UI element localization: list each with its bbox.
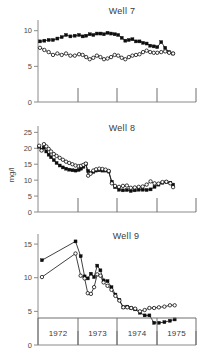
data-point-filled bbox=[95, 32, 98, 35]
data-point-filled bbox=[96, 264, 99, 267]
data-point-filled bbox=[52, 38, 55, 41]
data-point-open bbox=[74, 252, 77, 255]
data-point-filled bbox=[68, 168, 71, 171]
data-point-open bbox=[163, 305, 166, 308]
data-point-open bbox=[92, 285, 95, 288]
data-point-filled bbox=[92, 33, 95, 36]
y-tick-label: 15 bbox=[24, 240, 32, 249]
data-point-open bbox=[106, 284, 109, 287]
data-point-filled bbox=[148, 314, 151, 317]
data-point-filled bbox=[52, 159, 55, 162]
data-point-open bbox=[173, 304, 176, 307]
data-point-open bbox=[117, 185, 120, 188]
year-label-1975: 1975 bbox=[167, 329, 186, 338]
y-tick-label: 15 bbox=[24, 160, 32, 169]
data-point-open bbox=[124, 58, 127, 61]
data-point-open bbox=[113, 184, 116, 187]
y-tick-label: 5 bbox=[28, 307, 32, 316]
data-point-filled bbox=[149, 44, 152, 47]
data-point-filled bbox=[78, 33, 81, 36]
data-point-open bbox=[73, 54, 76, 57]
panel-1: 0510Well 7 bbox=[24, 6, 196, 107]
data-point-open bbox=[89, 172, 92, 175]
data-point-filled bbox=[145, 42, 148, 45]
data-point-filled bbox=[117, 33, 120, 36]
data-point-filled bbox=[102, 33, 105, 36]
data-point-open bbox=[99, 274, 102, 277]
data-point-open bbox=[167, 51, 170, 54]
data-point-filled bbox=[47, 38, 50, 41]
data-point-open bbox=[152, 51, 155, 54]
data-point-filled bbox=[50, 156, 53, 159]
data-point-open bbox=[122, 306, 125, 309]
data-point-open bbox=[130, 306, 133, 309]
panel-2: 0510152025Well 8 bbox=[24, 123, 196, 217]
data-point-filled bbox=[93, 276, 96, 279]
data-point-open bbox=[121, 184, 124, 187]
data-point-open bbox=[92, 56, 95, 59]
data-point-open bbox=[148, 306, 151, 309]
data-point-filled bbox=[73, 34, 76, 37]
data-point-filled bbox=[99, 269, 102, 272]
data-point-open bbox=[133, 307, 136, 310]
year-label-1973: 1973 bbox=[88, 329, 107, 338]
year-label-1974: 1974 bbox=[128, 329, 147, 338]
data-point-open bbox=[110, 182, 113, 185]
data-point-open bbox=[64, 52, 67, 55]
data-point-open bbox=[77, 53, 80, 56]
data-point-open bbox=[47, 50, 50, 53]
data-point-filled bbox=[153, 321, 156, 324]
data-point-open bbox=[169, 182, 172, 185]
data-point-filled bbox=[168, 319, 171, 322]
data-point-open bbox=[157, 182, 160, 185]
data-point-filled bbox=[145, 189, 148, 192]
data-point-filled bbox=[142, 41, 145, 44]
data-point-open bbox=[163, 50, 166, 53]
y-tick-label: 0 bbox=[28, 341, 32, 350]
data-point-open bbox=[38, 46, 41, 49]
panel-title: Well 8 bbox=[109, 123, 136, 133]
data-point-open bbox=[148, 50, 151, 53]
data-point-filled bbox=[38, 40, 41, 43]
data-point-filled bbox=[89, 272, 92, 275]
data-point-open bbox=[145, 183, 148, 186]
data-point-open bbox=[107, 169, 110, 172]
data-point-open bbox=[156, 51, 159, 54]
panel-title: Well 7 bbox=[109, 6, 136, 16]
data-point-filled bbox=[110, 32, 113, 35]
data-point-filled bbox=[157, 321, 160, 324]
data-point-open bbox=[109, 55, 112, 58]
data-point-open bbox=[113, 53, 116, 56]
data-point-filled bbox=[99, 32, 102, 35]
data-point-filled bbox=[88, 33, 91, 36]
y-axis-title: mg/l bbox=[7, 167, 16, 182]
y-tick-label: 5 bbox=[28, 192, 32, 201]
data-point-open bbox=[43, 48, 46, 51]
data-point-open bbox=[116, 54, 119, 57]
data-point-filled bbox=[86, 277, 89, 280]
panel-title: Well 9 bbox=[113, 231, 140, 241]
data-point-filled bbox=[131, 38, 134, 41]
data-point-filled bbox=[71, 169, 74, 172]
data-point-filled bbox=[149, 188, 152, 191]
data-point-open bbox=[161, 180, 164, 183]
data-point-filled bbox=[60, 36, 63, 39]
data-point-filled bbox=[79, 255, 82, 258]
data-point-filled bbox=[127, 38, 130, 41]
y-tick-label: 10 bbox=[24, 26, 32, 35]
data-point-open bbox=[99, 55, 102, 58]
data-point-filled bbox=[65, 33, 68, 36]
data-point-filled bbox=[124, 39, 127, 42]
data-point-open bbox=[168, 304, 171, 307]
data-point-open bbox=[153, 182, 156, 185]
data-point-open bbox=[88, 58, 91, 61]
data-point-filled bbox=[69, 35, 72, 38]
data-point-filled bbox=[74, 240, 77, 243]
data-point-open bbox=[171, 52, 174, 55]
y-tick-label: 5 bbox=[28, 62, 32, 71]
data-point-open bbox=[141, 185, 144, 188]
data-point-filled bbox=[134, 40, 137, 43]
y-tick-label: 10 bbox=[24, 273, 32, 282]
data-point-filled bbox=[40, 259, 43, 262]
data-point-open bbox=[149, 180, 152, 183]
